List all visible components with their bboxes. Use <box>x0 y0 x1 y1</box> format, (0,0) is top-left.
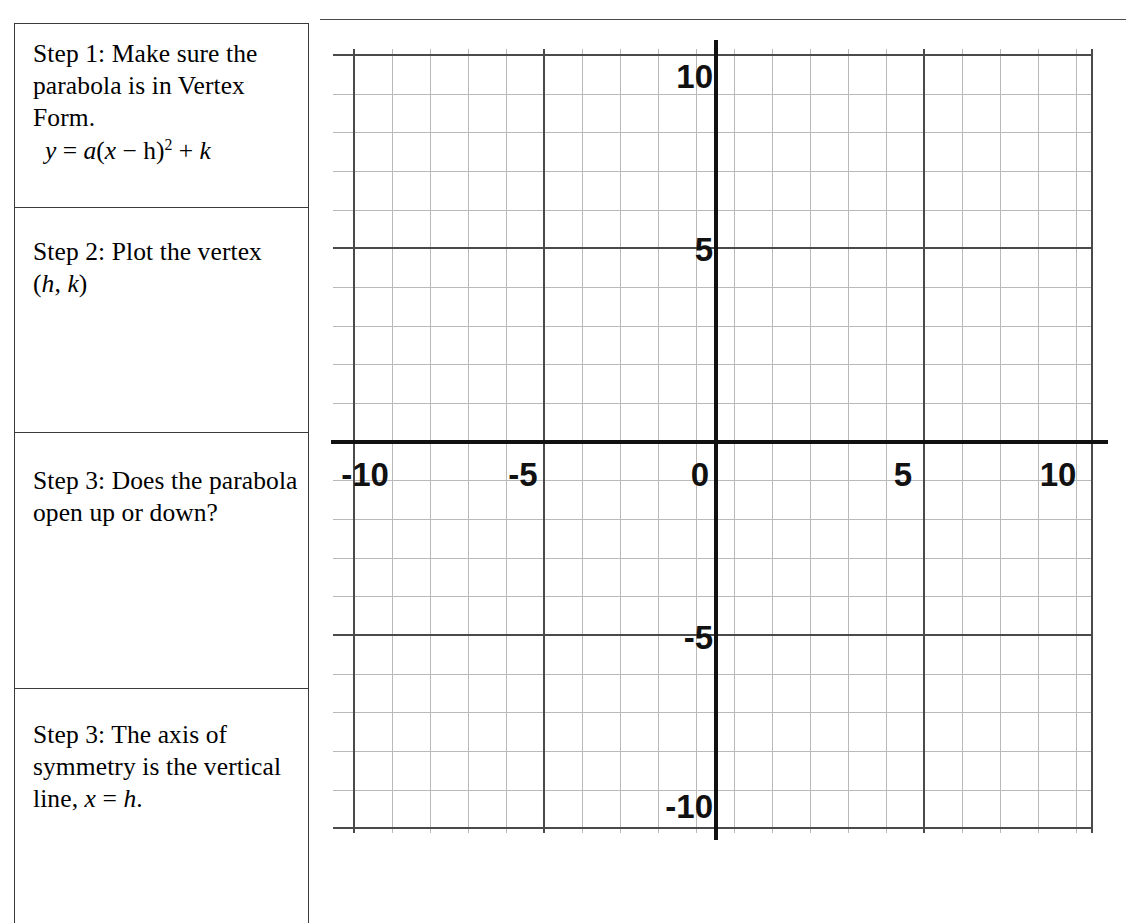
y-tick-label-plus5: 5 <box>695 233 713 266</box>
step-2-text-prefix: Step 2: Plot the vertex <box>33 237 268 266</box>
step-4-cell: Step 3: The axis of symmetry is the vert… <box>15 689 308 924</box>
step-4-axis-x: x <box>85 784 96 813</box>
graph-grid <box>318 0 1126 909</box>
x-tick-label-plus10: 10 <box>1040 458 1077 491</box>
step-4-text-prefix: Step 3: The axis of symmetry is the vert… <box>33 720 288 813</box>
step-2-vertex-k: k <box>67 269 78 298</box>
step-2-vertex-open: ( <box>33 269 42 298</box>
x-tick-label-zero: 0 <box>691 458 709 491</box>
y-tick-label-minus5: -5 <box>684 621 713 654</box>
formula-plus: + <box>179 136 193 165</box>
step-1-cell: Step 1: Make sure the parabola is in Ver… <box>15 24 308 208</box>
step-4-text: Step 3: The axis of symmetry is the vert… <box>33 719 298 815</box>
steps-table: Step 1: Make sure the parabola is in Ver… <box>14 23 309 923</box>
step-1-text: Step 1: Make sure the parabola is in Ver… <box>33 38 298 134</box>
formula-a: a <box>83 136 96 165</box>
step-3-text: Step 3: Does the parabola open up or dow… <box>33 465 298 529</box>
step-2-cell: Step 2: Plot the vertex (h, k) <box>15 208 308 433</box>
formula-minus: − <box>122 136 136 165</box>
x-tick-label-minus10: -10 <box>341 458 389 491</box>
grid-svg <box>318 0 1126 909</box>
step-2-vertex-close: ) <box>79 269 88 298</box>
formula-x: x <box>105 136 116 165</box>
axes <box>331 40 1108 840</box>
step-4-axis-equals: = <box>96 784 123 813</box>
formula-equals: = <box>63 136 77 165</box>
step-1-formula: y = a(x − h)2 + k <box>33 134 298 168</box>
y-tick-label-minus10: -10 <box>665 790 713 823</box>
formula-open-paren: ( <box>96 136 105 165</box>
step-4-axis-h: h <box>123 784 136 813</box>
x-tick-label-minus5: -5 <box>508 458 537 491</box>
step-2-text: Step 2: Plot the vertex (h, k) <box>33 236 298 300</box>
x-tick-label-plus5: 5 <box>894 458 912 491</box>
formula-h: h <box>143 136 156 165</box>
coordinate-grid-panel: -10 -5 0 5 10 10 5 -5 -10 <box>318 0 1126 909</box>
step-4-axis-period: . <box>136 784 142 813</box>
step-3-cell: Step 3: Does the parabola open up or dow… <box>15 433 308 689</box>
y-tick-label-plus10: 10 <box>676 60 713 93</box>
formula-k: k <box>199 136 210 165</box>
formula-y: y <box>45 136 56 165</box>
step-2-vertex-h: h <box>42 269 55 298</box>
